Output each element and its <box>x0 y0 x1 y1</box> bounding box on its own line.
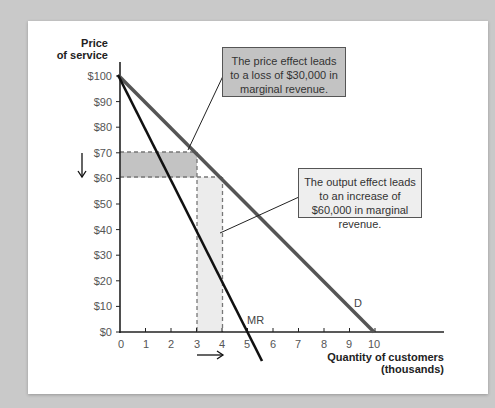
svg-text:7: 7 <box>295 338 301 350</box>
svg-text:10: 10 <box>368 338 380 350</box>
svg-text:$80: $80 <box>94 121 112 133</box>
x-axis-title: Quantity of customers (thousands) <box>327 351 444 375</box>
price-effect-callout: The price effect leads to a loss of $30,… <box>222 47 346 97</box>
svg-text:$30: $30 <box>94 249 112 261</box>
price-callout-leader <box>188 76 223 150</box>
svg-text:$70: $70 <box>94 147 112 159</box>
svg-text:$10: $10 <box>94 300 112 312</box>
svg-text:9: 9 <box>346 338 352 350</box>
svg-text:Quantity of customers: Quantity of customers <box>327 351 444 363</box>
svg-text:$50: $50 <box>94 198 112 210</box>
svg-text:1: 1 <box>143 338 149 350</box>
svg-text:2: 2 <box>168 338 174 350</box>
demand-label: D <box>354 297 362 309</box>
svg-text:Price: Price <box>81 37 108 49</box>
svg-text:$90: $90 <box>94 96 112 108</box>
svg-text:$40: $40 <box>94 224 112 236</box>
svg-text:$0: $0 <box>100 326 112 338</box>
svg-text:8: 8 <box>321 338 327 350</box>
quantity-increase-arrow-icon <box>197 351 223 359</box>
svg-text:(thousands): (thousands) <box>381 363 444 375</box>
mr-label: MR <box>247 314 264 326</box>
svg-text:of service: of service <box>57 49 108 61</box>
x-tick-labels: 0 1 2 3 4 5 6 7 8 9 10 <box>118 338 380 350</box>
svg-text:0: 0 <box>118 338 124 350</box>
svg-text:$20: $20 <box>94 275 112 287</box>
svg-text:$60: $60 <box>94 172 112 184</box>
marginal-revenue-curve <box>118 75 262 361</box>
y-tick-labels: $0 $10 $20 $30 $40 $50 $60 $70 $80 $90 $… <box>88 70 112 338</box>
svg-text:6: 6 <box>270 338 276 350</box>
svg-text:$100: $100 <box>88 70 112 82</box>
svg-text:4: 4 <box>219 338 225 350</box>
svg-text:3: 3 <box>194 338 200 350</box>
y-axis-title: Price of service <box>57 37 108 61</box>
price-decrease-arrow-icon <box>78 153 86 177</box>
svg-text:5: 5 <box>244 338 250 350</box>
output-effect-callout: The output effect leads to an increase o… <box>298 168 422 218</box>
output-callout-leader <box>220 197 299 233</box>
